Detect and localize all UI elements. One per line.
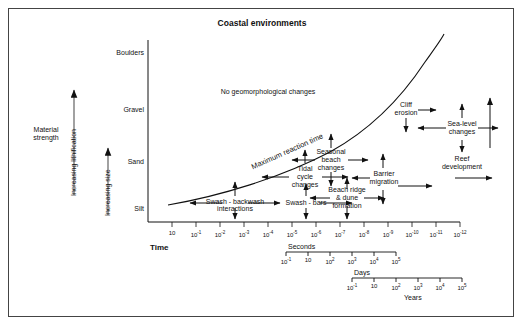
process-cliff-line2: erosion xyxy=(395,109,418,117)
process-seasonal-line3: changes xyxy=(318,164,344,172)
x-tick-3: 10-3 xyxy=(239,230,250,238)
x-tick-4: 10-4 xyxy=(263,230,274,238)
process-swash-backwash-line2: interactions xyxy=(217,205,253,213)
days-tick-2: 102 xyxy=(391,283,400,291)
increasing-lithification-label: Increasing lithification xyxy=(70,129,77,196)
days-tick-4: 104 xyxy=(435,283,444,291)
x-tick-11: 10-11 xyxy=(430,230,443,238)
process-swash-bars: Swash - bars xyxy=(286,199,327,207)
y-label-sand: Sand xyxy=(128,158,144,166)
x-tick-12: 10-12 xyxy=(453,230,466,238)
years-scale-label: Years xyxy=(404,294,422,301)
process-beach-ridge-line3: formation xyxy=(332,202,361,210)
process-reef-line1: Reef xyxy=(455,155,470,163)
x-tick-7: 10-7 xyxy=(335,230,346,238)
process-beach-ridge-line2: & dune xyxy=(336,194,358,202)
seconds-tick-0: 10-1 xyxy=(281,257,292,265)
y-label-silt: Silt xyxy=(134,205,144,213)
seconds-tick-1: 10 xyxy=(305,257,312,263)
seconds-tick-2: 102 xyxy=(325,257,334,265)
days-scale-bar xyxy=(352,278,462,282)
process-sea-level-line2: changes xyxy=(449,128,475,136)
process-cliff-line1: Cliff xyxy=(400,101,412,109)
figure-root: Coastal environments xyxy=(0,0,524,327)
increasing-size-label: Increasing size xyxy=(104,169,111,216)
process-seasonal-line2: beach xyxy=(321,156,340,164)
days-tick-5: 105 xyxy=(457,283,466,291)
x-tick-0: 10 xyxy=(169,230,176,236)
material-strength-label-line2: strength xyxy=(33,134,58,142)
seconds-tick-4: 104 xyxy=(369,257,378,265)
process-reef-line2: development xyxy=(442,163,482,171)
days-tick-1: 10 xyxy=(371,283,378,289)
x-tick-10: 10-10 xyxy=(405,230,418,238)
seconds-tick-3: 103 xyxy=(347,257,356,265)
process-tidal-line1: Tidal xyxy=(298,165,313,173)
y-label-boulders: Boulders xyxy=(116,49,144,57)
days-scale-label: Days xyxy=(354,269,370,276)
x-tick-9: 10-9 xyxy=(383,230,394,238)
y-label-gravel: Gravel xyxy=(123,106,144,114)
x-tick-2: 10-2 xyxy=(215,230,226,238)
seconds-scale-bar xyxy=(286,252,396,256)
seconds-scale-label: Seconds xyxy=(288,243,315,250)
no-geomorphological-changes-label: No geomorphological changes xyxy=(221,88,316,96)
x-tick-6: 10-6 xyxy=(311,230,322,238)
x-axis-title: Time xyxy=(150,243,169,252)
seconds-tick-5: 105 xyxy=(391,257,400,265)
days-tick-3: 103 xyxy=(413,283,422,291)
material-strength-label-line1: Material xyxy=(34,126,59,134)
x-tick-1: 10-1 xyxy=(191,230,202,238)
x-axis-ticks xyxy=(172,222,460,227)
process-sea-level-line1: Sea-level xyxy=(447,120,476,128)
process-beach-ridge-line1: Beach ridge xyxy=(328,186,365,194)
process-barrier-line1: Barrier xyxy=(373,170,394,178)
x-tick-8: 10-8 xyxy=(359,230,370,238)
process-barrier-line2: migration xyxy=(370,178,399,186)
process-tidal-line2: cycle xyxy=(297,173,313,181)
days-tick-0: 10-1 xyxy=(347,283,358,291)
process-seasonal-line1: Seasonal xyxy=(316,148,345,156)
x-tick-5: 10-5 xyxy=(287,230,298,238)
process-tidal-line3: changes xyxy=(292,181,318,189)
